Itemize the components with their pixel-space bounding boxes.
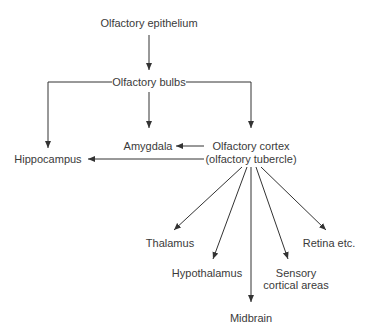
node-olfactory-epithelium: Olfactory epithelium	[100, 17, 197, 30]
arrow-cortex-to-hypothalamus	[213, 167, 247, 259]
node-olfactory-cortex: Olfactory cortex	[212, 140, 289, 153]
arrow-cortex-to-thalamus	[174, 167, 242, 230]
node-cortical-areas: cortical areas	[263, 279, 328, 292]
node-amygdala: Amygdala	[124, 140, 173, 153]
node-olfactory-bulbs: Olfactory bulbs	[112, 76, 185, 89]
node-hippocampus: Hippocampus	[14, 153, 81, 166]
node-olfactory-tubercle: (olfactory tubercle)	[205, 153, 296, 166]
arrow-cortex-to-retina	[261, 167, 326, 230]
arrow-cortex-to-sensory	[256, 167, 288, 259]
node-midbrain: Midbrain	[230, 312, 272, 325]
arrow-bulbs-to-cortex	[186, 82, 251, 128]
node-hypothalamus: Hypothalamus	[172, 267, 242, 280]
node-thalamus: Thalamus	[146, 237, 194, 250]
arrow-bulbs-to-hippocampus	[48, 82, 112, 148]
node-retina: Retina etc.	[303, 237, 356, 250]
olfactory-pathway-diagram: Olfactory epithelium Olfactory bulbs Amy…	[0, 0, 368, 335]
